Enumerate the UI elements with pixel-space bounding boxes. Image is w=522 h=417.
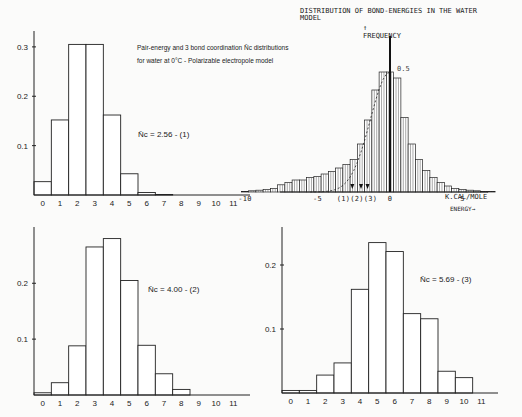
x-tick-label: 9: [196, 399, 201, 408]
x-tick-label: 1: [306, 397, 311, 406]
energy-bar: [278, 185, 285, 192]
x-tick-label: 8: [179, 199, 184, 208]
x-tick-label: 4: [110, 199, 115, 208]
bar: [351, 289, 368, 393]
energy-label: ENERGY: [450, 205, 472, 212]
x-tick-label: 10: [212, 199, 221, 208]
x-tick-label: 1: [58, 399, 63, 408]
x-tick-label: 2: [323, 397, 328, 406]
bar: [69, 44, 86, 195]
energy-bar: [379, 72, 386, 192]
energy-bar: [452, 188, 459, 192]
bar: [51, 120, 68, 195]
x-tick-label: 11: [229, 399, 238, 408]
arrow-up-icon: ↑: [363, 24, 367, 32]
x-tick-label: 7: [162, 399, 167, 408]
x-tick-label: 8: [427, 397, 432, 406]
peak-value-label: 0.5: [397, 65, 410, 73]
bar: [455, 378, 472, 393]
x-tick-label: 3: [92, 199, 97, 208]
energy-bar: [256, 190, 263, 192]
x-tick-label: 4: [110, 399, 115, 408]
x-tick-label: 11: [229, 199, 238, 208]
bar: [51, 383, 68, 395]
bar: [155, 374, 172, 395]
x-tick-label: 10: [460, 397, 469, 406]
frequency-axis-label: ↑FREQUENCY: [363, 24, 401, 40]
y-tick-label: 0.2: [17, 279, 29, 288]
annotation-nc-3: N̄c = 5.69 - (3): [420, 275, 471, 284]
energy-bar: [328, 172, 335, 192]
bar: [317, 375, 334, 393]
energy-bar: [270, 188, 277, 192]
caption-line-1: Pair-energy and 3 bond coordination N̄c …: [137, 41, 288, 54]
x-tick-label: 7: [162, 199, 167, 208]
y-tick-label: 0.3: [17, 43, 29, 52]
bar: [138, 345, 155, 395]
energy-tick-label: -5: [313, 195, 322, 203]
x-tick-label: 3: [340, 397, 345, 406]
x-tick-label: 11: [477, 397, 486, 406]
energy-bar: [321, 174, 328, 192]
x-tick-label: 8: [179, 399, 184, 408]
arrow-right-icon: →: [472, 205, 476, 212]
energy-bar: [263, 190, 270, 192]
y-tick-label: 0.1: [17, 142, 29, 151]
bar: [334, 363, 351, 393]
annotation-nc-1: N̄c = 2.56 - (1): [138, 130, 189, 139]
bar: [69, 346, 86, 395]
energy-bar: [401, 118, 408, 192]
bar: [86, 44, 103, 195]
x-tick-label: 5: [127, 199, 132, 208]
energy-axis-label: ENERGY→: [450, 205, 475, 212]
energy-unit-label: K.CAL/MOLE: [445, 193, 487, 201]
y-tick-label: 0.1: [265, 325, 277, 334]
frequency-label: FREQUENCY: [363, 32, 401, 40]
energy-bar: [249, 191, 256, 192]
histogram-coord-2: 012345678910110.10.2: [17, 227, 250, 408]
bar: [369, 243, 386, 393]
x-tick-label: 4: [358, 397, 363, 406]
x-tick-label: 6: [144, 399, 149, 408]
energy-bar: [415, 160, 422, 192]
energy-bar: [241, 191, 248, 192]
x-tick-label: 7: [410, 397, 415, 406]
caption-line-2: for water at 0°C - Polarizable electropo…: [137, 54, 288, 67]
bar: [121, 174, 138, 195]
bar: [34, 182, 51, 195]
bar: [121, 280, 138, 395]
bar: [103, 115, 120, 195]
x-tick-label: 5: [127, 399, 132, 408]
x-tick-label: 2: [75, 199, 80, 208]
y-tick-label: 0.1: [17, 335, 29, 344]
y-tick-label: 0.2: [17, 92, 29, 101]
bar: [403, 314, 420, 393]
energy-bar: [299, 180, 306, 192]
energy-bar: [430, 178, 437, 192]
histogram-coord-3: 012345678910110.10.2: [265, 227, 498, 406]
x-tick-label: 9: [444, 397, 449, 406]
energy-bar: [343, 164, 350, 192]
x-tick-label: 9: [196, 199, 201, 208]
x-tick-label: 0: [40, 399, 45, 408]
energy-bar: [336, 168, 343, 192]
energy-bar: [292, 180, 299, 192]
x-tick-label: 2: [75, 399, 80, 408]
energy-bar: [444, 186, 451, 192]
figure-caption: Pair-energy and 3 bond coordination N̄c …: [137, 41, 288, 67]
x-tick-label: 0: [40, 199, 45, 208]
energy-bar: [285, 182, 292, 192]
energy-bar: [314, 176, 321, 192]
bar: [103, 239, 120, 395]
x-tick-label: 6: [144, 199, 149, 208]
bar: [438, 371, 455, 393]
energy-bar: [365, 120, 372, 192]
marker-labels: (1)(2)(3): [337, 195, 378, 203]
energy-tick-label: -10: [238, 195, 252, 203]
bar: [386, 252, 403, 393]
x-tick-label: 0: [288, 397, 293, 406]
energy-bar: [307, 178, 314, 192]
bar: [173, 389, 190, 395]
energy-bar: [437, 182, 444, 192]
bar: [421, 319, 438, 393]
